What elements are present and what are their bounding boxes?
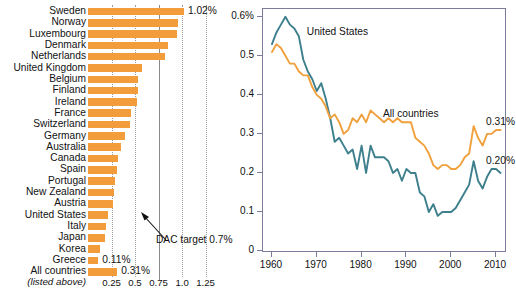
bar-category-label: Australia <box>46 141 86 153</box>
line-y-tick-label: 0 <box>248 244 254 256</box>
bar-category-label: Luxembourg <box>29 28 86 40</box>
bar-category-label: New Zealand <box>26 186 86 198</box>
bar-category-label: Canada <box>50 152 86 164</box>
bar-rect <box>88 189 114 197</box>
line-x-tick-mark <box>495 252 496 257</box>
bar-value-label: 1.02% <box>188 5 217 17</box>
line-y-tick-mark <box>257 133 262 134</box>
line-x-tick-label: 1990 <box>394 259 416 271</box>
bar-rect <box>88 42 168 50</box>
line-y-tick-mark <box>257 55 262 56</box>
line-x-tick-label: 1970 <box>305 259 327 271</box>
bar-rect <box>88 211 108 219</box>
bar-rect <box>88 143 121 151</box>
bar-rect <box>88 53 165 61</box>
bar-x-tick-label: 1.25 <box>196 277 215 289</box>
bar-x-tick-label: 0.25 <box>102 277 121 289</box>
bar-rect <box>88 245 100 253</box>
bar-row: Luxembourg <box>0 29 228 41</box>
bar-row: Canada <box>0 153 228 165</box>
bar-category-label: Portugal <box>48 175 86 187</box>
line-y-tick-mark <box>257 94 262 95</box>
line-annotation: All countries <box>383 108 439 119</box>
bar-rect <box>88 223 106 231</box>
line-x-tick-mark <box>271 252 272 257</box>
line-x-tick-label: 2000 <box>439 259 461 271</box>
line-y-tick-mark <box>257 16 262 17</box>
line-y-tick-label: 0.5 <box>240 49 254 61</box>
bar-row: Australia <box>0 142 228 154</box>
line-x-tick-mark <box>361 252 362 257</box>
bar-row: Germany <box>0 131 228 143</box>
bar-category-label: Sweden <box>49 5 86 17</box>
bar-row: Belgium <box>0 74 228 86</box>
bar-category-label: Belgium <box>49 73 86 85</box>
line-y-tick-mark <box>257 250 262 251</box>
line-annotation: 0.31% <box>486 116 515 127</box>
line-x-tick-label: 1960 <box>260 259 282 271</box>
bar-category-label: Netherlands <box>31 50 86 62</box>
bar-rect <box>88 8 184 16</box>
line-chart-plot-frame <box>262 8 506 252</box>
bar-chart-panel: Sweden1.02%NorwayLuxembourgDenmarkNether… <box>0 0 228 298</box>
line-x-tick-mark <box>450 252 451 257</box>
bar-rect <box>88 109 131 117</box>
bar-category-label: Spain <box>60 163 86 175</box>
bar-rect <box>88 30 177 38</box>
bar-category-label: Ireland <box>55 96 86 108</box>
bar-rect <box>88 166 117 174</box>
line-x-tick-label: 2010 <box>484 259 506 271</box>
line-chart-panel: 00.10.20.30.40.50.6% 1960197019801990200… <box>228 0 516 298</box>
bar-rect <box>88 268 117 276</box>
bar-row: Italy <box>0 221 228 233</box>
bar-rect <box>88 19 178 27</box>
line-y-tick-label: 0.4 <box>240 88 254 100</box>
line-y-tick-mark <box>257 211 262 212</box>
line-annotation: United States <box>307 26 368 37</box>
line-y-tick-label: 0.6% <box>231 10 254 22</box>
bar-category-label: Greece <box>53 254 86 266</box>
line-annotation: 0.20% <box>486 155 515 166</box>
bar-row: Spain <box>0 164 228 176</box>
chart-figure: Sweden1.02%NorwayLuxembourgDenmarkNether… <box>0 0 516 298</box>
bar-row: Ireland <box>0 97 228 109</box>
bar-category-label: Denmark <box>45 39 86 51</box>
bar-category-label: Switzerland <box>33 118 86 130</box>
bar-row: United Kingdom <box>0 63 228 75</box>
bar-rect <box>88 76 138 84</box>
bar-row: Finland <box>0 85 228 97</box>
bar-category-label: Japan <box>58 231 86 243</box>
bar-rect <box>88 98 137 106</box>
line-y-tick-mark <box>257 172 262 173</box>
bar-category-label: Italy <box>67 220 86 232</box>
bar-x-tick-label: 0.5 <box>128 277 141 289</box>
bar-category-label: United Kingdom <box>14 62 87 74</box>
line-x-tick-label: 1980 <box>349 259 371 271</box>
bar-value-label: 0.11% <box>102 254 130 266</box>
bar-row: Switzerland <box>0 119 228 131</box>
bar-rect <box>88 155 118 163</box>
line-chart-series-svg <box>263 9 505 251</box>
bar-rect <box>88 234 105 242</box>
bar-category-label: Austria <box>54 197 86 209</box>
bar-rect <box>88 87 138 95</box>
bar-rect <box>88 121 130 129</box>
bar-category-label: France <box>54 107 86 119</box>
bar-row: United States <box>0 210 228 222</box>
bar-category-label: Norway <box>51 16 86 28</box>
bar-row: New Zealand <box>0 187 228 199</box>
line-y-tick-label: 0.3 <box>240 127 254 139</box>
bar-category-label: United States <box>25 209 86 221</box>
bar-rect <box>88 200 113 208</box>
bar-x-tick-label: 0.75 <box>149 277 168 289</box>
bar-rect <box>88 64 142 72</box>
line-y-tick-label: 0.1 <box>240 205 254 217</box>
bar-rect <box>88 132 125 140</box>
line-x-tick-mark <box>316 252 317 257</box>
line-y-tick-label: 0.2 <box>240 166 254 178</box>
bar-row: Sweden1.02% <box>0 6 228 18</box>
dac-target-note: DAC target 0.7% <box>156 234 232 245</box>
bar-x-tick-label: 1.0 <box>175 277 188 289</box>
bar-rect <box>88 257 98 265</box>
bar-category-label: Germany <box>44 130 86 142</box>
